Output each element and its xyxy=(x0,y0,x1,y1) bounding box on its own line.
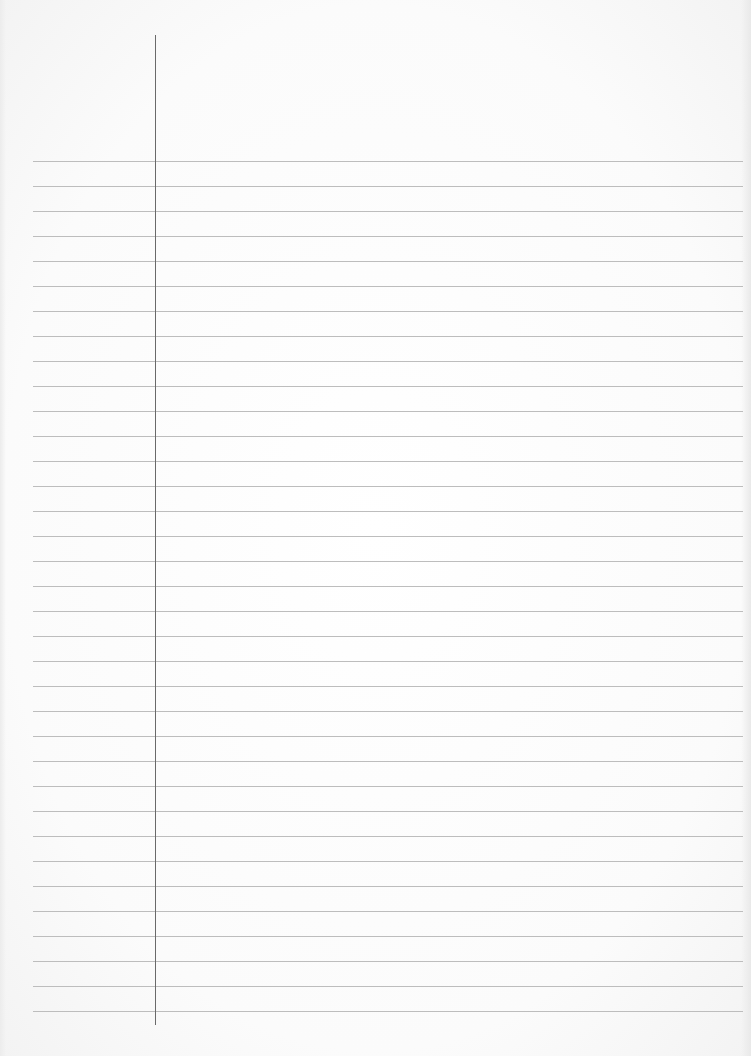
rule-line xyxy=(33,561,743,562)
rule-line xyxy=(33,261,743,262)
rule-line xyxy=(33,761,743,762)
rule-line xyxy=(33,736,743,737)
rule-line xyxy=(33,186,743,187)
rule-line xyxy=(33,286,743,287)
rule-line xyxy=(33,636,743,637)
rule-line xyxy=(33,161,743,162)
margin-line xyxy=(155,35,156,1025)
rule-line xyxy=(33,236,743,237)
rule-line xyxy=(33,436,743,437)
notebook-page xyxy=(0,0,751,1056)
rule-line xyxy=(33,911,743,912)
rule-line xyxy=(33,586,743,587)
rule-line xyxy=(33,861,743,862)
rule-line xyxy=(33,361,743,362)
rule-line xyxy=(33,961,743,962)
rule-line xyxy=(33,486,743,487)
rule-line xyxy=(33,786,743,787)
rule-line xyxy=(33,336,743,337)
rule-line xyxy=(33,611,743,612)
rule-line xyxy=(33,211,743,212)
rule-line xyxy=(33,411,743,412)
rule-line xyxy=(33,986,743,987)
rule-line xyxy=(33,686,743,687)
rule-line xyxy=(33,661,743,662)
rule-line xyxy=(33,536,743,537)
rule-line xyxy=(33,1011,743,1012)
page-edge-shadow-right xyxy=(741,0,751,1056)
rule-line xyxy=(33,386,743,387)
rule-line xyxy=(33,711,743,712)
rule-line xyxy=(33,811,743,812)
page-edge-shadow-left xyxy=(0,0,6,1056)
rule-line xyxy=(33,836,743,837)
rule-line xyxy=(33,886,743,887)
rule-line xyxy=(33,936,743,937)
rule-line xyxy=(33,461,743,462)
rule-line xyxy=(33,311,743,312)
rule-line xyxy=(33,511,743,512)
